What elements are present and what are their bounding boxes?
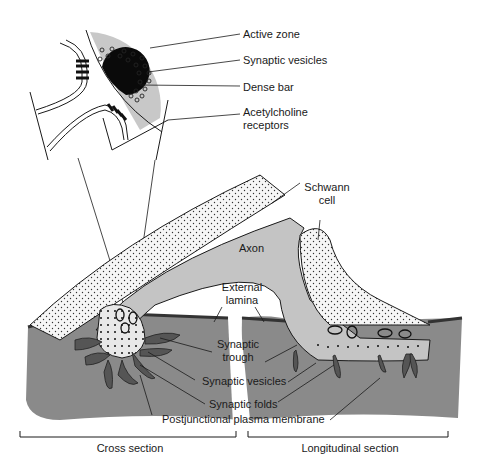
label-schwann-line1: Schwann: [302, 181, 352, 194]
label-dense-bar: Dense bar: [243, 81, 294, 94]
neuromuscular-junction-diagram: Active zone Synaptic vesicles Dense bar …: [0, 0, 479, 465]
inset-magnified-view: [30, 30, 240, 160]
label-schwann-line2: cell: [302, 194, 352, 207]
label-cross-section: Cross section: [60, 442, 200, 455]
diagram-canvas: [0, 0, 479, 465]
label-synaptic-trough-line2: trough: [209, 351, 267, 364]
label-postjunctional-membrane: Postjunctional plasma membrane: [162, 413, 325, 426]
label-ach-receptors-line1: Acetylcholine: [243, 106, 308, 119]
label-longitudinal-section: Longitudinal section: [290, 442, 410, 455]
label-synaptic-vesicles-main: Synaptic vesicles: [202, 375, 286, 388]
label-synaptic-trough-line1: Synaptic: [209, 338, 267, 351]
label-synaptic-folds: Synaptic folds: [209, 398, 277, 411]
label-ach-receptors-line2: receptors: [243, 119, 289, 132]
label-external-lamina-line2: lamina: [212, 294, 272, 307]
label-external-lamina-line1: External: [212, 281, 272, 294]
label-axon: Axon: [239, 242, 264, 255]
section-brackets: [20, 431, 448, 437]
label-active-zone: Active zone: [243, 28, 300, 41]
label-synaptic-vesicles-inset: Synaptic vesicles: [243, 54, 327, 67]
